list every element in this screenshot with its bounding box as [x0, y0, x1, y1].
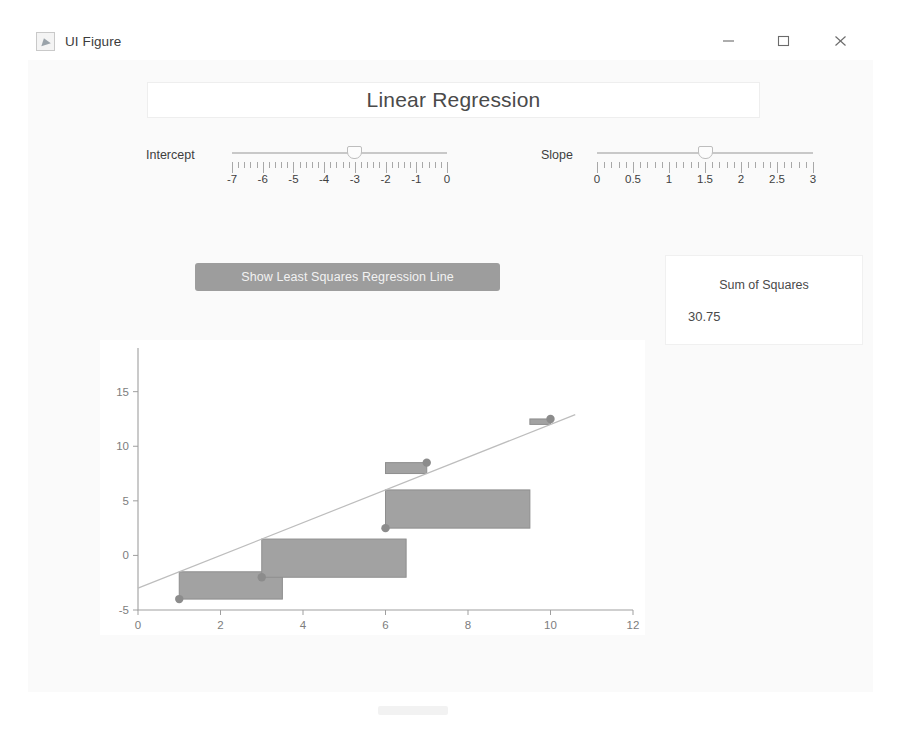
- page-title: Linear Regression: [367, 88, 541, 112]
- slope-label: Slope: [541, 148, 573, 162]
- x-axis-tick-label: 10: [544, 619, 557, 631]
- intercept-slider-track[interactable]: [232, 152, 447, 154]
- sum-of-squares-label: Sum of Squares: [666, 278, 862, 292]
- data-point[interactable]: [423, 458, 431, 466]
- slope-slider-ticks: [597, 162, 813, 173]
- ui-figure-window: UI Figure Linear Regression Intercept: [28, 22, 873, 692]
- header-panel: Linear Regression: [147, 82, 760, 118]
- show-least-squares-button[interactable]: Show Least Squares Regression Line: [195, 263, 500, 291]
- x-axis-tick-label: 6: [382, 619, 388, 631]
- slider-tick-label: 0: [444, 173, 450, 185]
- intercept-slider[interactable]: -7-6-5-4-3-2-10: [232, 146, 447, 191]
- slider-tick-label: -4: [319, 173, 329, 185]
- matlab-figure-icon: [36, 32, 55, 51]
- slider-tick-label: -5: [288, 173, 298, 185]
- window-title: UI Figure: [65, 34, 121, 49]
- data-point[interactable]: [258, 573, 266, 581]
- slope-slider-thumb[interactable]: [698, 146, 713, 159]
- x-axis-tick-label: 8: [465, 619, 471, 631]
- x-axis-tick-label: 4: [300, 619, 307, 631]
- regression-plot-svg: -5051015024681012: [100, 340, 645, 635]
- slider-tick-label: -1: [411, 173, 421, 185]
- minimize-icon: [722, 35, 735, 46]
- y-axis-tick-label: 10: [116, 440, 129, 452]
- slope-slider-group: Slope 00.511.522.53: [541, 146, 841, 196]
- regression-plot: -5051015024681012: [100, 340, 645, 635]
- slider-tick-label: 0.5: [625, 173, 641, 185]
- x-axis-tick-label: 12: [627, 619, 640, 631]
- data-point[interactable]: [381, 524, 389, 532]
- residual-square: [386, 490, 530, 528]
- intercept-slider-group: Intercept -7-6-5-4-3-2-10: [146, 146, 476, 196]
- slope-slider[interactable]: 00.511.522.53: [597, 146, 813, 191]
- page-artifact: [378, 706, 448, 715]
- sum-of-squares-value: 30.75: [688, 309, 721, 324]
- title-bar: UI Figure: [28, 22, 873, 60]
- intercept-label: Intercept: [146, 148, 195, 162]
- slider-tick-label: 2.5: [769, 173, 785, 185]
- y-axis-tick-label: 15: [116, 386, 129, 398]
- close-icon: [834, 35, 847, 47]
- slider-tick-label: 2: [738, 173, 744, 185]
- slider-tick-label: 3: [810, 173, 816, 185]
- slider-tick-label: -2: [380, 173, 390, 185]
- close-button[interactable]: [825, 28, 855, 54]
- slider-tick-label: -7: [227, 173, 237, 185]
- slider-tick-label: 1: [666, 173, 672, 185]
- minimize-button[interactable]: [713, 28, 743, 54]
- slider-tick-label: -6: [258, 173, 268, 185]
- y-axis-tick-label: 0: [123, 549, 129, 561]
- data-point[interactable]: [546, 415, 554, 423]
- slider-tick-label: 0: [594, 173, 600, 185]
- intercept-slider-thumb[interactable]: [347, 146, 362, 159]
- sum-of-squares-panel: Sum of Squares 30.75: [665, 255, 863, 345]
- slider-tick-label: 1.5: [697, 173, 713, 185]
- y-axis-tick-label: -5: [119, 604, 129, 616]
- intercept-slider-ticks: [232, 162, 447, 173]
- y-axis-tick-label: 5: [123, 495, 129, 507]
- x-axis-tick-label: 0: [135, 619, 141, 631]
- figure-client-area: Linear Regression Intercept -7-6-5-4-3-2…: [28, 60, 873, 692]
- residual-square: [262, 539, 406, 577]
- data-point[interactable]: [175, 595, 183, 603]
- x-axis-tick-label: 2: [217, 619, 223, 631]
- maximize-icon: [777, 35, 790, 47]
- maximize-button[interactable]: [768, 28, 798, 54]
- slider-tick-label: -3: [350, 173, 360, 185]
- residual-square: [386, 463, 427, 474]
